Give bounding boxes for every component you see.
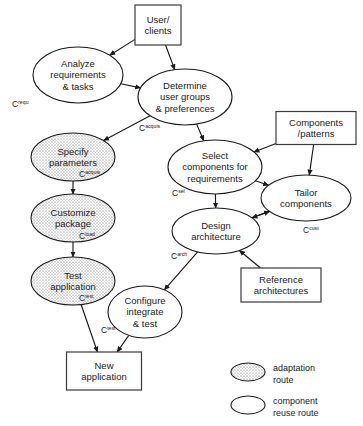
edge-tailor-to-design [252,211,269,217]
node-label-line: & tasks [62,81,93,92]
node-label-line: application [81,371,126,382]
node-label-line: Tailor [295,187,318,198]
edge-configure-to-newapp [117,335,129,352]
node-specify-parameters[interactable]: SpecifyparametersCacquis [31,133,115,181]
cost-label-configure-integrate-test: Ctest [101,325,116,335]
edge-reference-to-design [239,250,260,268]
cost-superscript: test [85,293,94,299]
cost-superscript: cust [309,225,319,231]
cost-superscript: arch [177,251,187,257]
node-configure-integrate-test[interactable]: Configureintegrate& testCtest [101,286,182,338]
node-label-line: components for [182,161,247,172]
legend-swatch-shaded [231,363,265,381]
legend-label-line: route [273,375,294,385]
node-label-line: architecture [191,231,241,242]
node-label-line: requirements [187,173,243,184]
node-label-line: New [94,360,113,371]
cost-label-tailor-components: Ccust [303,225,319,235]
node-label-line: Select [202,150,229,161]
node-label-line: components [280,198,332,209]
node-label-line: Determine [163,80,207,91]
cost-superscript: acquis [145,123,160,129]
edge-components-to-tailor [309,145,313,176]
node-label-line: application [50,281,95,292]
legend-item-legend-component-reuse: componentreuse route [231,396,319,418]
cost-superscript: load [85,231,95,237]
node-label-line: package [55,218,91,229]
edge-design-to-configure [164,252,197,290]
edge-components-to-select [254,143,276,151]
cost-superscript: sel [178,188,185,194]
node-label-line: parameters [49,157,97,168]
node-determine-user-groups[interactable]: Determineuser groups& preferencesCacquis [138,69,232,133]
node-label-line: User/ [147,14,170,25]
legend-label-line: adaptation [273,363,315,373]
node-customize-package[interactable]: CustomizepackageCload [31,194,115,242]
node-label-line: requirements [50,69,106,80]
node-user-clients[interactable]: User/clients [135,5,181,45]
cost-label-select-components: Csel [172,188,185,198]
node-design-architecture[interactable]: DesignarchitectureCarch [171,208,260,261]
flow-diagram: User/clientsAnalyzerequirements& tasksCr… [0,0,363,426]
edge-user-to-determine [166,45,175,70]
node-components-patterns[interactable]: Components/patterns [276,112,356,145]
node-tailor-components[interactable]: TailorcomponentsCcust [261,175,351,235]
node-label-line: integrate [127,306,164,317]
edge-user-to-analyze [110,39,135,55]
node-layer: User/clientsAnalyzerequirements& tasksCr… [12,5,356,390]
edge-select-to-tailor [255,181,268,185]
node-label-line: Specify [57,146,88,157]
node-select-components[interactable]: Selectcomponents forrequirementsCsel [168,140,262,198]
node-label-line: architectures [254,285,309,296]
node-label-line: Test [64,270,82,281]
node-label-line: Reference [259,274,303,285]
legend-label-line: reuse route [273,408,319,418]
cost-superscript: test [107,325,116,331]
node-label-line: & test [133,318,158,329]
diagram-canvas: User/clientsAnalyzerequirements& tasksCr… [0,0,363,426]
node-label-line: Customize [51,207,96,218]
edge-determine-to-select [197,124,204,141]
node-test-application[interactable]: TestapplicationCtest [31,257,115,305]
legend-item-legend-adaptation: adaptationroute [231,363,315,385]
cost-label-analyze-requirements: Crequ [12,99,29,109]
node-label-line: Analyze [61,58,95,69]
node-label-line: Configure [124,295,165,306]
legend-swatch-plain [231,396,265,414]
legend-layer: adaptationroutecomponentreuse route [231,363,319,418]
node-analyze-requirements[interactable]: Analyzerequirements& tasksCrequ [12,47,123,109]
node-label-line: Design [201,220,231,231]
cost-superscript: acquis [85,169,100,175]
edge-test-to-newapp [81,305,97,352]
node-new-application[interactable]: Newapplication [67,352,142,390]
legend-label-line: component [273,396,318,406]
node-label-line: clients [145,25,172,36]
edge-analyze-to-determine [121,84,141,88]
node-label-line: /patterns [298,128,335,139]
cost-label-design-architecture: Carch [171,251,187,261]
cost-label-determine-user-groups: Cacquis [139,123,161,133]
cost-superscript: requ [18,99,28,105]
node-label-line: & preferences [155,103,214,114]
node-label-line: user groups [160,91,210,102]
node-label-line: Components [289,117,343,128]
node-reference-architectures[interactable]: Referencearchitectures [241,268,321,302]
